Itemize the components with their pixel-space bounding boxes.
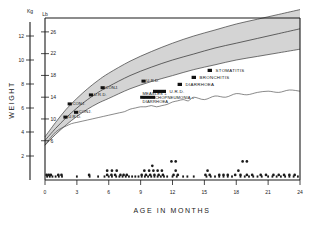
baseline-tick (176, 175, 178, 177)
baseline-tick (46, 175, 48, 177)
event-marker-urd-1 (63, 116, 67, 119)
y-tick-kg-12: 12 (18, 33, 24, 39)
event-marker-conj-3 (101, 86, 105, 89)
event-label-urd-3: U.R.D. (146, 78, 159, 83)
visit-dot (115, 169, 118, 172)
baseline-tick (147, 175, 149, 177)
visit-dot (277, 174, 280, 177)
visit-dot (152, 169, 155, 172)
visit-dot (246, 160, 249, 163)
growth-chart-figure: 24681012 61014182226 03691215182124 Kg L… (0, 0, 319, 225)
event-marker-urd-2 (89, 93, 93, 96)
baseline-tick (252, 175, 254, 177)
x-tick-21: 21 (265, 189, 271, 195)
y-tick-kg-10: 10 (18, 57, 24, 63)
visit-dot (106, 169, 109, 172)
right-unit-label: Lb (42, 11, 48, 17)
x-tick-15: 15 (202, 189, 208, 195)
baseline-tick (128, 175, 130, 177)
baseline-tick (214, 175, 216, 177)
visit-dot (156, 169, 159, 172)
event-label-urd-1: U.R.D. (68, 114, 81, 119)
visit-dot (206, 169, 209, 172)
baseline-tick (227, 175, 229, 177)
baseline-tick (52, 175, 54, 177)
left-unit-label: Kg (27, 8, 33, 14)
baseline-tick (55, 175, 57, 177)
baseline-tick (49, 175, 51, 177)
event-label-diarrhoea-2: DIARRHOEA (143, 99, 169, 104)
y-axis-title: WEIGHT (8, 81, 15, 119)
baseline-tick (138, 175, 140, 177)
event-label-urd-2: U.R.D. (94, 92, 107, 97)
baseline-tick (293, 175, 295, 177)
legend-label-stomatitis: STOMATITIS (216, 68, 245, 73)
legend-marker-diarrhoea (178, 83, 182, 86)
visit-dot (161, 169, 164, 172)
baseline-tick (58, 175, 60, 177)
x-tick-0: 0 (44, 189, 47, 195)
baseline-tick (122, 175, 124, 177)
baseline-tick (111, 175, 113, 177)
x-tick-24: 24 (297, 189, 303, 195)
legend-label-bronchitis: BRONCHITIS (200, 75, 230, 80)
baseline-tick (193, 175, 195, 177)
baseline-tick (134, 175, 136, 177)
y-tick-lb-14: 14 (51, 94, 57, 100)
event-label-conj-3: CONJ. (105, 85, 118, 90)
y-tick-kg-4: 4 (21, 129, 24, 135)
baseline-tick (157, 175, 159, 177)
baseline-tick (271, 175, 273, 177)
baseline-tick (115, 175, 117, 177)
visit-dot (143, 169, 146, 172)
baseline-tick (166, 175, 168, 177)
visit-dot (237, 169, 240, 172)
y-tick-lb-22: 22 (51, 50, 57, 56)
baseline-tick (131, 175, 133, 177)
baseline-tick (89, 175, 91, 177)
visit-dot (111, 169, 114, 172)
x-tick-3: 3 (75, 189, 78, 195)
baseline-tick (297, 175, 299, 177)
x-axis-title: AGE IN MONTHS (134, 207, 211, 214)
x-tick-9: 9 (139, 189, 142, 195)
baseline-tick (97, 175, 99, 177)
baseline-tick (206, 175, 208, 177)
y-tick-lb-10: 10 (51, 116, 57, 122)
baseline-tick (218, 175, 220, 177)
chart-canvas: 24681012 61014182226 03691215182124 Kg L… (0, 0, 319, 225)
legend-marker-stomatitis (208, 69, 212, 72)
event-marker-conj-2 (68, 102, 72, 105)
event-label-conj-2: CONJ. (72, 101, 85, 106)
baseline-tick (141, 175, 143, 177)
visit-dot (148, 169, 151, 172)
baseline-tick (284, 175, 286, 177)
legend-label-diarrhoea: DIARRHOEA (186, 82, 215, 87)
visit-dot (151, 164, 154, 167)
y-tick-lb-6: 6 (51, 138, 54, 144)
baseline-tick (280, 175, 282, 177)
y-tick-lb-18: 18 (51, 72, 57, 78)
baseline-tick (125, 175, 127, 177)
baseline-tick (288, 175, 290, 177)
legend-marker-urd (153, 90, 166, 93)
baseline-tick (182, 175, 184, 177)
baseline-tick (108, 175, 110, 177)
baseline-tick (244, 175, 246, 177)
baseline-tick (154, 175, 156, 177)
baseline-tick (267, 175, 269, 177)
x-axis-ticks: 03691215182124 (44, 180, 303, 195)
baseline-tick (163, 175, 165, 177)
baseline-tick (261, 175, 263, 177)
baseline-tick (223, 175, 225, 177)
x-tick-12: 12 (170, 189, 176, 195)
visit-dot (174, 160, 177, 163)
y-tick-lb-26: 26 (51, 29, 57, 35)
visit-dot (246, 174, 249, 177)
x-tick-6: 6 (107, 189, 110, 195)
y-tick-kg-2: 2 (21, 153, 24, 159)
event-marker-urd-3 (141, 80, 145, 83)
visit-dot (241, 160, 244, 163)
baseline-tick (248, 175, 250, 177)
baseline-tick (231, 175, 233, 177)
